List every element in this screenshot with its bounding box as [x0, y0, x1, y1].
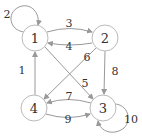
edge-label-6: 6: [84, 51, 91, 64]
svg-text:1: 1: [31, 31, 39, 46]
edge-label-9: 9: [65, 113, 72, 126]
svg-text:3: 3: [99, 101, 107, 116]
graph-diagram: 1 2 3 4 5 6 7 8 9 10 1 2 3 4: [0, 0, 142, 137]
edge-label-2: 2: [4, 8, 11, 21]
edge-label-8: 8: [112, 65, 119, 78]
edge-2-3: [104, 51, 105, 94]
edge-label-4: 4: [66, 40, 73, 53]
node-4: 4: [21, 95, 47, 121]
edge-label-10: 10: [124, 113, 138, 126]
edge-label-3: 3: [66, 17, 73, 30]
edge-label-7: 7: [66, 90, 73, 103]
node-2: 2: [92, 25, 118, 51]
svg-text:4: 4: [30, 101, 38, 116]
svg-text:2: 2: [101, 31, 109, 46]
node-3: 3: [90, 95, 116, 121]
edge-label-1: 1: [19, 64, 26, 77]
edge-label-5: 5: [82, 77, 89, 90]
node-1: 1: [22, 25, 48, 51]
